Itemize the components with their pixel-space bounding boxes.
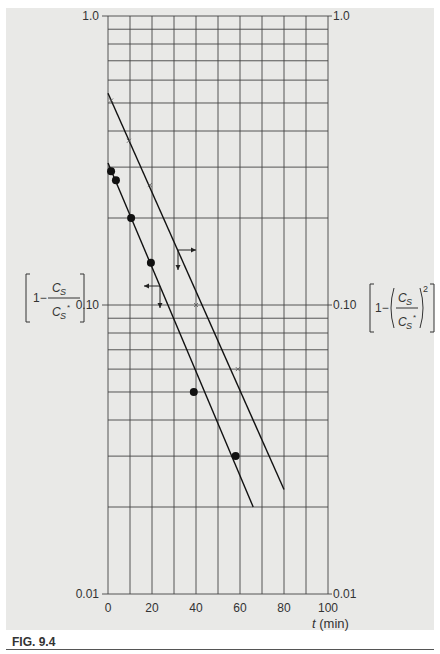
right-axis-title: 1− C S C S * 2: [368, 282, 436, 334]
left-tick-label: 1.0: [82, 9, 99, 23]
grid-lines: [102, 16, 332, 594]
x-tick-label: 60: [233, 601, 247, 615]
data-point-circle: [232, 452, 240, 460]
data-point-circle: [127, 214, 135, 222]
svg-text:S: S: [60, 311, 66, 321]
left-tick-label: 0.01: [76, 587, 100, 601]
svg-text:S: S: [60, 287, 66, 297]
x-tick-label: 40: [189, 601, 203, 615]
x-tick-label: 20: [145, 601, 159, 615]
right-tick-label: 1.0: [333, 9, 350, 23]
bottom-rule: [6, 649, 434, 650]
data-point-circle: [107, 167, 115, 175]
right-tick-label: 0.01: [333, 587, 357, 601]
figure-caption: FIG. 9.4: [12, 635, 55, 649]
svg-text:1−: 1−: [33, 291, 47, 305]
data-points: [107, 99, 240, 461]
x-axis-unit: (min): [319, 616, 349, 631]
svg-text:S: S: [406, 321, 412, 331]
svg-text:1−: 1−: [375, 301, 389, 315]
data-point-circle: [190, 388, 198, 396]
data-point-circle: [147, 259, 155, 267]
x-tick-label: 100: [318, 601, 338, 615]
data-point-circle: [112, 176, 120, 184]
svg-text:2: 2: [423, 284, 428, 294]
x-tick-label: 80: [277, 601, 291, 615]
x-axis-title: t (min): [312, 616, 349, 631]
svg-text:*: *: [67, 303, 70, 312]
left-axis-title: 1− C S C S *: [24, 272, 86, 324]
x-tick-label: 0: [105, 601, 112, 615]
svg-text:S: S: [406, 297, 412, 307]
tick-labels: 1.00.100.011.00.100.01020406080100: [76, 9, 357, 615]
right-tick-label: 0.10: [333, 298, 357, 312]
svg-text:*: *: [413, 313, 416, 322]
